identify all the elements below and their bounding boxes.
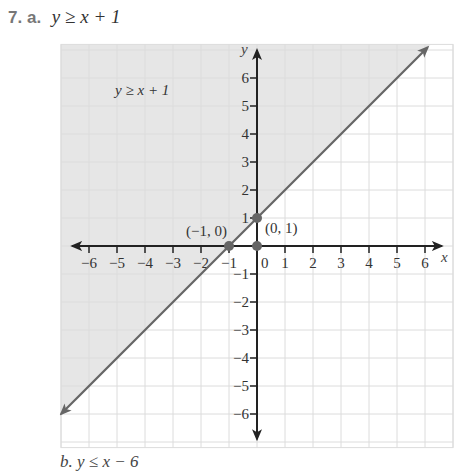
x-tick-label: −4 [137,255,153,271]
x-tick-label: 3 [337,255,345,271]
y-tick-label: −6 [233,406,249,422]
x-tick-label: −3 [165,255,181,271]
y-tick-label: −4 [233,350,249,366]
x-tick-label: 2 [309,255,317,271]
next-problem-label: b. y ≤ x − 6 [60,452,138,472]
y-tick-label: 3 [242,154,250,170]
x-tick-label: 4 [365,255,373,271]
x-tick-label: −6 [81,255,97,271]
y-tick-label: −5 [233,378,249,394]
origin-label: 0 [261,255,269,271]
plotted-point [252,213,262,223]
y-tick-label: −3 [233,322,249,338]
plotted-point [252,241,262,251]
region-label: y ≥ x + 1 [113,82,169,98]
x-tick-label: 1 [281,255,289,271]
y-tick-label: −1 [233,266,249,282]
y-tick-label: 1 [242,210,250,226]
y-tick-label: −2 [233,294,249,310]
x-tick-label: 5 [393,255,401,271]
point-label-neg1-0: (−1, 0) [186,223,227,240]
x-tick-label: −5 [109,255,125,271]
y-tick-label: 2 [242,182,250,198]
y-tick-label: 6 [242,70,250,86]
y-axis-label: y [239,41,248,57]
y-tick-label: 4 [242,126,250,142]
point-label-0-1: (0, 1) [265,220,298,237]
x-axis-label: x [440,249,448,265]
y-tick-label: 5 [242,98,250,114]
plotted-point [224,241,234,251]
x-tick-label: 6 [421,255,429,271]
